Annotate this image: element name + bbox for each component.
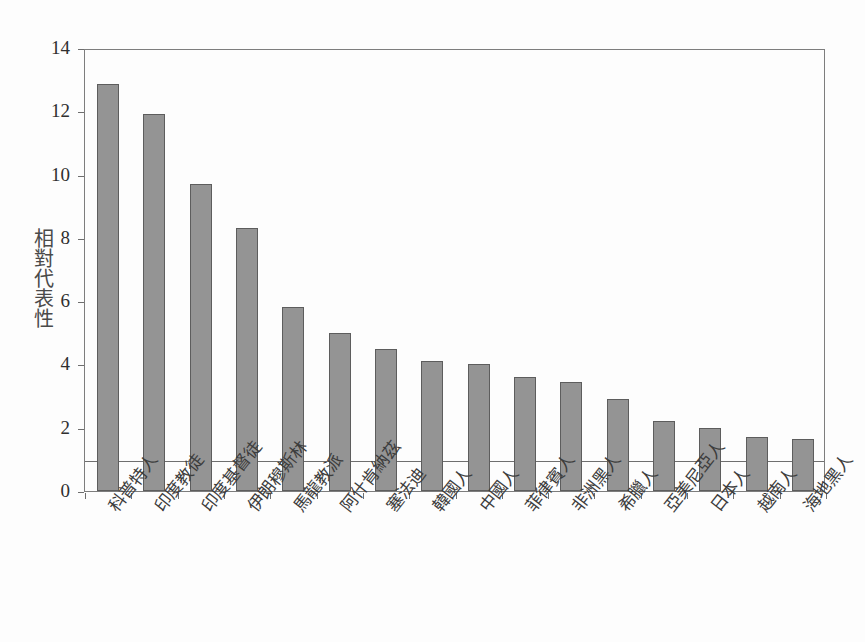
bar	[143, 114, 165, 491]
y-axis-tick-label: 6	[36, 290, 70, 312]
y-axis-tick-label: 8	[36, 227, 70, 249]
bar	[97, 84, 119, 491]
y-axis-tick-label: 0	[36, 480, 70, 502]
y-axis-tick-label: 10	[36, 164, 70, 186]
y-axis-tick-label: 14	[36, 37, 70, 59]
y-axis-tick-label: 2	[36, 417, 70, 439]
bar	[190, 184, 212, 491]
y-axis-tick-label: 12	[36, 100, 70, 122]
y-axis-tick-mark	[78, 492, 84, 493]
x-axis-tick-mark	[85, 493, 86, 499]
chart-page: 相對代表性 02468101214 科普特人印度教徒印度基督徒伊朗穆斯林馬龍教派…	[0, 0, 865, 642]
plot-area	[84, 49, 825, 492]
y-axis-tick-label: 4	[36, 353, 70, 375]
